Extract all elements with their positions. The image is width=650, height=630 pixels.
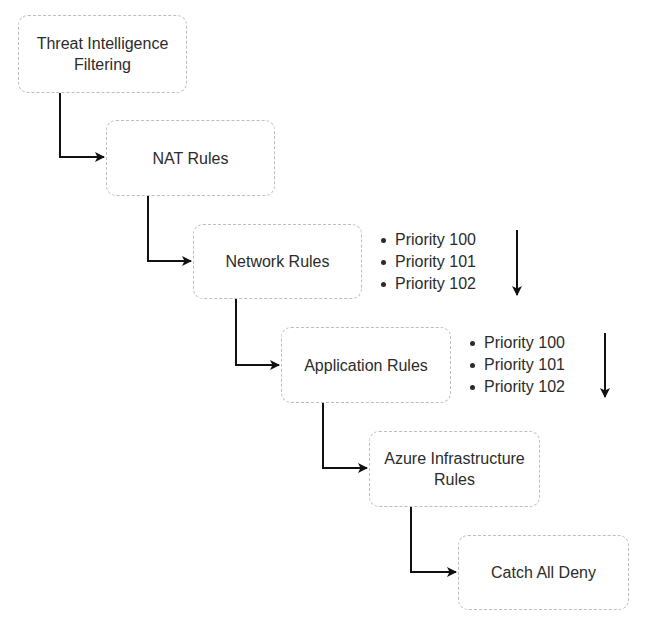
node-threat-intelligence-filtering: Threat Intelligence Filtering (18, 15, 187, 93)
node-label: NAT Rules (153, 148, 229, 169)
node-label: Catch All Deny (491, 562, 596, 583)
node-network-rules: Network Rules (193, 224, 362, 299)
application-priority-list: Priority 100 Priority 101 Priority 102 (470, 332, 565, 398)
node-nat-rules: NAT Rules (106, 120, 275, 196)
priority-item: Priority 100 (381, 229, 476, 251)
priority-item: Priority 101 (381, 251, 476, 273)
node-label-line: Azure Infrastructure (384, 448, 525, 469)
node-catch-all-deny: Catch All Deny (458, 535, 629, 610)
connector-network-to-application (236, 299, 279, 365)
priority-item: Priority 102 (381, 273, 476, 295)
node-label: Application Rules (304, 355, 428, 376)
node-label-line: Threat Intelligence (37, 33, 169, 54)
node-azure-infrastructure-rules: Azure Infrastructure Rules (369, 431, 540, 507)
connector-threat-to-nat (60, 93, 104, 157)
node-label-line: Filtering (37, 54, 169, 75)
priority-item: Priority 101 (470, 354, 565, 376)
node-label-line: Rules (384, 469, 525, 490)
network-priority-list: Priority 100 Priority 101 Priority 102 (381, 229, 476, 295)
priority-item: Priority 100 (470, 332, 565, 354)
node-label: Network Rules (225, 251, 329, 272)
priority-item: Priority 102 (470, 376, 565, 398)
connector-application-to-azure-infra (323, 403, 367, 468)
connector-azure-infra-to-catch-all (411, 507, 456, 572)
connector-nat-to-network (148, 196, 191, 261)
node-application-rules: Application Rules (281, 327, 451, 403)
